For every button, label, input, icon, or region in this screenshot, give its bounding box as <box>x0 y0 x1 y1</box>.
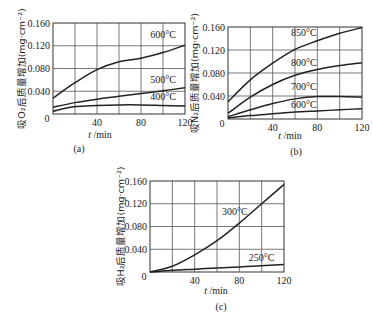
x-tick-label: 80 <box>234 275 244 286</box>
figure-canvas: 0.0400.0800.1200.16040801200t /min吸O₂后质量… <box>0 0 373 322</box>
chart-a: 0.0400.0800.1200.16040801200t /min吸O₂后质量… <box>16 8 193 155</box>
series-label: 600°C <box>291 99 317 110</box>
panel-caption: (b) <box>290 146 302 158</box>
chart-c: 0.0400.0800.1200.16040801200t /min吸H₂后质量… <box>115 167 292 313</box>
series-label: 500°C <box>150 74 176 85</box>
series-label: 300°C <box>222 206 248 217</box>
y-tick-label: 0.160 <box>203 22 226 33</box>
y-tick-label: 0.040 <box>28 86 51 97</box>
y-tick-label: 0.040 <box>125 244 148 255</box>
series-label: 400°C <box>150 91 176 102</box>
y-tick-label: 0.040 <box>203 91 226 102</box>
y-tick-label: 0.160 <box>28 18 51 29</box>
y-tick-label: 0.120 <box>125 198 148 209</box>
series-label: 800°C <box>291 57 317 68</box>
y-axis-label: 吸H₂后质量增加(mg·cm⁻²) <box>115 167 126 287</box>
y-tick-label: 0.120 <box>28 40 51 51</box>
y-axis-label: 吸N₂后质量增加(mg·cm⁻²) <box>189 13 200 133</box>
x-axis-label: t /min <box>204 285 228 296</box>
origin-label: 0 <box>45 113 50 124</box>
series-label: 700°C <box>291 81 317 92</box>
x-tick-label: 80 <box>312 122 322 133</box>
x-tick-label: 40 <box>92 117 102 128</box>
x-axis-label: t /min <box>278 130 302 141</box>
series-label: 250°C <box>249 252 275 263</box>
y-tick-label: 0.120 <box>203 45 226 56</box>
panel-caption: (a) <box>73 143 84 155</box>
x-axis-label: t /min <box>88 129 112 140</box>
x-tick-label: 40 <box>268 122 278 133</box>
chart-b: 0.0400.0800.1200.16040801200t /min吸N₂后质量… <box>189 13 370 158</box>
origin-label: 0 <box>142 271 147 282</box>
y-tick-label: 0.160 <box>125 176 148 187</box>
panel-caption: (c) <box>215 301 226 313</box>
y-tick-label: 0.080 <box>28 63 51 74</box>
x-tick-label: 80 <box>136 117 146 128</box>
series-label: 850°C <box>291 27 317 38</box>
x-tick-label: 40 <box>190 275 200 286</box>
x-tick-label: 120 <box>355 122 370 133</box>
y-tick-label: 0.080 <box>203 68 226 79</box>
y-axis-label: 吸O₂后质量增加(mg·cm⁻²) <box>16 8 27 128</box>
series-label: 600°C <box>150 29 176 40</box>
x-tick-label: 120 <box>277 275 292 286</box>
y-tick-label: 0.080 <box>125 221 148 232</box>
origin-label: 0 <box>220 118 225 129</box>
